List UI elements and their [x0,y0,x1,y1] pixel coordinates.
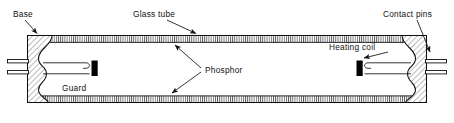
contact-pin-left-upper [8,60,29,63]
diagram-canvas: Base Glass tube Contact pins Phosphor He… [0,0,454,123]
leader-base [25,20,37,34]
label-guard: Guard [62,83,86,93]
heating-coil-block [357,61,363,77]
guard-block [92,61,98,77]
label-contact-pins: Contact pins [383,9,432,19]
contact-pin-right-lower [426,71,447,74]
label-base: Base [13,9,33,19]
phosphor-coating-bottom [37,96,418,102]
label-glass-tube: Glass tube [133,9,175,19]
contact-pin-right-upper [426,60,447,63]
contact-pins-left [8,60,29,74]
leader-glass-tube [167,20,196,34]
label-phosphor: Phosphor [205,65,243,75]
lamp-diagram: Base Glass tube Contact pins Phosphor He… [0,0,454,123]
contact-pins-right [426,60,447,74]
label-heating-coil: Heating coil [329,42,375,52]
contact-pin-left-lower [8,71,29,74]
